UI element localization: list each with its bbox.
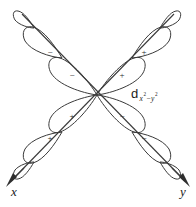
orbital-diagram-figure: − − + + + + − −: [0, 0, 196, 207]
lobe-sign-lower-left-inner: +: [69, 111, 74, 121]
orbital-label: d x 2 − y 2: [131, 86, 158, 102]
lobe-lower-left-outer: [23, 132, 62, 163]
lobe-upper-right-outer: [132, 27, 171, 58]
lobe-sign-upper-left-inner: −: [69, 70, 74, 80]
lobe-upper-left-outer: [23, 27, 62, 58]
lobe-upper-left-tip: [13, 11, 34, 28]
y-axis-label: y: [178, 184, 186, 199]
orbital-arm-lower-right: − −: [97, 95, 181, 179]
x-axis-label: x: [10, 184, 17, 199]
lobe-sign-upper-right-outer: +: [141, 47, 146, 57]
orbital-label-symbol: d: [131, 86, 138, 101]
lobe-sign-lower-right-outer: −: [141, 133, 146, 143]
orbital-arm-upper-right: + +: [97, 11, 181, 95]
orbital-label-sub-exponent-2: 2: [155, 91, 158, 97]
lobe-sign-upper-right-inner: +: [119, 70, 124, 80]
lobe-sign-lower-left-outer: +: [47, 133, 52, 143]
lobe-sign-upper-left-outer: −: [47, 47, 52, 57]
x-axis: x: [6, 168, 24, 199]
orbital-diagram-canvas: − − + + + + − −: [0, 0, 196, 207]
lobe-sign-lower-right-inner: −: [119, 111, 124, 121]
orbital-arm-upper-left: − −: [13, 11, 97, 95]
y-axis: y: [172, 168, 190, 199]
lobe-lower-right-outer: [132, 132, 171, 163]
lobe-lower-right-tip: [160, 162, 181, 179]
